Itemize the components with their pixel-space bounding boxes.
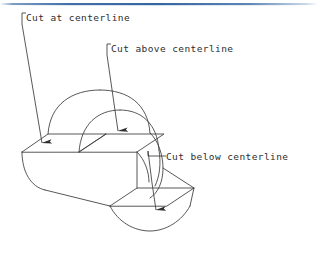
cylinder-surface-mid-right xyxy=(155,150,160,186)
label-cut-below-centerline: Cut below centerline xyxy=(166,152,288,162)
arch-outer-left xyxy=(48,90,100,134)
cylinder-cut-drawing xyxy=(0,0,318,255)
label-cut-above-centerline: Cut above centerline xyxy=(111,44,233,54)
left-end-arc xyxy=(22,152,45,190)
arch-inner-left xyxy=(79,110,120,152)
right-end-to-lower-face-edge xyxy=(163,168,194,188)
lower-face-bottom-arc xyxy=(110,206,190,231)
label-cut-at-centerline: Cut at centerline xyxy=(26,13,130,23)
leader-line-cut-above-centerline xyxy=(107,55,118,131)
left-flat-face-at-centerline xyxy=(22,134,106,152)
cylinder-bottom-front-edge xyxy=(45,190,110,206)
diagram-page: Cut at centerline Cut above centerline C… xyxy=(0,0,318,255)
arch-inner-right xyxy=(120,110,159,150)
leader-line-cut-at-centerline xyxy=(22,24,42,143)
middle-flat-face-above-centerline xyxy=(79,134,164,152)
right-end-arc-inner xyxy=(137,152,149,182)
